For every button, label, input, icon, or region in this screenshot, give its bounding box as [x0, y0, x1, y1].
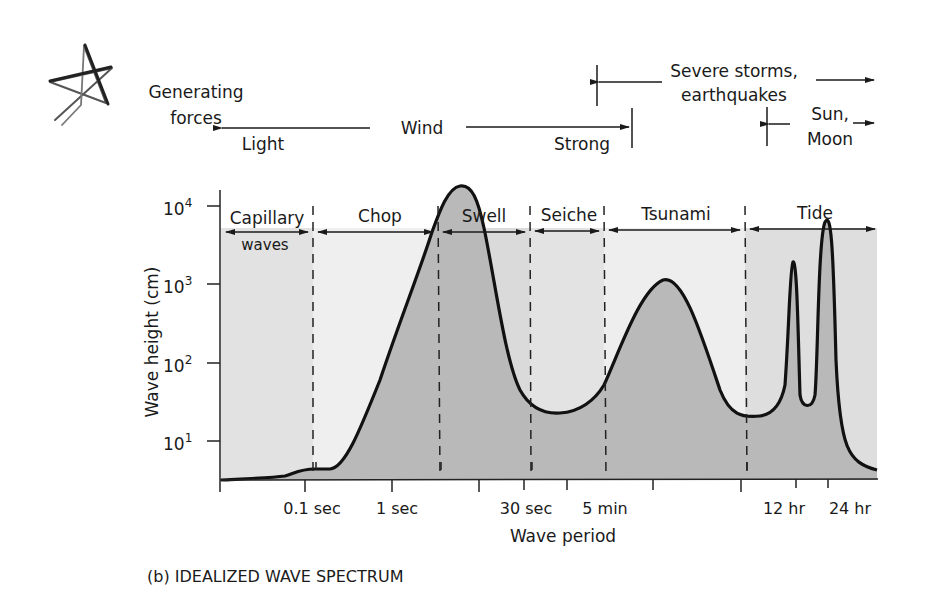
x-axis-title: Wave period: [510, 526, 616, 546]
hand-drawn-star-icon: [50, 45, 112, 125]
wave-spectrum-figure: Generating forces Wind Light Strong Seve…: [0, 0, 929, 592]
wind-strong-label: Strong: [554, 134, 610, 154]
x-tick-1sec: 1 sec: [376, 499, 418, 518]
band-label-swell: Swell: [462, 206, 507, 226]
x-tick-0-1sec: 0.1 sec: [283, 499, 341, 518]
band-label-chop: Chop: [358, 206, 402, 226]
y-tick-labels: 104 103 102 101: [163, 196, 192, 454]
y-tick-1e2: 102: [163, 353, 192, 376]
band-label-tsunami: Tsunami: [640, 204, 711, 224]
y-tick-1e3: 103: [163, 274, 192, 297]
storms-label-line2: earthquakes: [681, 85, 787, 105]
generating-forces-title-line1: Generating: [148, 82, 243, 102]
x-tick-5min: 5 min: [582, 499, 627, 518]
x-tick-30sec: 30 sec: [500, 499, 552, 518]
x-axis: [220, 479, 878, 480]
sunmoon-label-line1: Sun,: [811, 104, 849, 124]
x-tick-24hr: 24 hr: [829, 499, 872, 518]
sunmoon-label-line2: Moon: [807, 129, 853, 149]
y-tick-1e1: 101: [163, 431, 192, 454]
band-label-seiche: Seiche: [541, 205, 598, 225]
band-label-capillary-line2: waves: [241, 236, 289, 254]
divider-swell-seiche: [530, 206, 531, 478]
y-axis-title: Wave height (cm): [142, 267, 162, 418]
generating-forces-title-line2: forces: [170, 108, 222, 128]
band-label-capillary: Capillary: [230, 208, 305, 228]
generating-forces-legend: Generating forces Wind Light Strong Seve…: [148, 61, 874, 154]
band-label-tide: Tide: [796, 203, 833, 223]
wind-label: Wind: [401, 118, 444, 138]
x-tick-12hr: 12 hr: [763, 499, 806, 518]
wind-light-label: Light: [242, 134, 285, 154]
x-tick-labels: 0.1 sec 1 sec 30 sec 5 min 12 hr 24 hr: [283, 499, 871, 518]
storms-label-line1: Severe storms,: [670, 61, 798, 81]
y-tick-1e4: 104: [163, 196, 192, 219]
figure-caption: (b) IDEALIZED WAVE SPECTRUM: [147, 567, 403, 586]
band-capillary-bg: [221, 228, 313, 480]
